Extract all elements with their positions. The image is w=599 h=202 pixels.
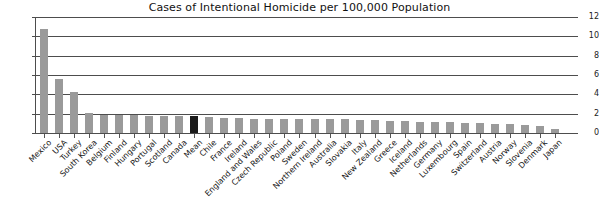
bar-iceland bbox=[401, 121, 409, 133]
bar-netherlands bbox=[416, 122, 424, 133]
bar-finland bbox=[115, 115, 123, 133]
bar-austria bbox=[491, 124, 499, 133]
bar-chile bbox=[205, 117, 213, 133]
x-tick-mark bbox=[480, 134, 481, 138]
bar-scotland bbox=[160, 116, 168, 133]
bar-slovenia bbox=[521, 125, 529, 133]
plot-area bbox=[36, 17, 578, 133]
x-tick-mark bbox=[330, 134, 331, 138]
gridline bbox=[36, 75, 578, 76]
bar-england-and-wales bbox=[250, 119, 258, 134]
bar-slovakia bbox=[341, 119, 349, 133]
bar-south-korea bbox=[85, 113, 93, 133]
x-tick-mark bbox=[540, 134, 541, 138]
bar-spain bbox=[461, 123, 469, 133]
x-tick-label: Mexico bbox=[27, 138, 53, 164]
bar-denmark bbox=[536, 126, 544, 133]
x-tick-mark bbox=[345, 134, 346, 138]
gridline bbox=[36, 36, 578, 37]
y-tick-mark bbox=[32, 114, 35, 115]
y-tick-mark bbox=[32, 17, 35, 18]
y-tick-mark bbox=[32, 94, 35, 95]
x-tick-mark bbox=[164, 134, 165, 138]
chart-title: Cases of Intentional Homicide per 100,00… bbox=[0, 1, 599, 14]
bar-usa bbox=[55, 79, 63, 133]
x-tick-mark bbox=[465, 134, 466, 138]
x-tick-mark bbox=[299, 134, 300, 138]
x-tick-mark bbox=[224, 134, 225, 138]
x-tick-mark bbox=[194, 134, 195, 138]
x-tick-mark bbox=[134, 134, 135, 138]
x-tick-mark bbox=[59, 134, 60, 138]
bar-greece bbox=[386, 121, 394, 133]
bar-poland bbox=[280, 119, 288, 134]
x-tick-mark bbox=[525, 134, 526, 138]
x-tick-mark bbox=[510, 134, 511, 138]
homicide-bar-chart: Cases of Intentional Homicide per 100,00… bbox=[0, 0, 599, 202]
x-tick-mark bbox=[239, 134, 240, 138]
x-tick-mark bbox=[315, 134, 316, 138]
x-tick-mark bbox=[44, 134, 45, 138]
x-tick-mark bbox=[269, 134, 270, 138]
x-tick-mark bbox=[420, 134, 421, 138]
bar-italy bbox=[356, 120, 364, 133]
x-tick-mark bbox=[254, 134, 255, 138]
x-tick-mark bbox=[495, 134, 496, 138]
bar-sweden bbox=[295, 119, 303, 134]
bar-mexico bbox=[40, 29, 48, 133]
bar-czech-republic bbox=[265, 119, 273, 134]
bar-switzerland bbox=[476, 123, 484, 133]
x-tick-mark bbox=[555, 134, 556, 138]
bar-new-zealand bbox=[371, 120, 379, 133]
bar-portugal bbox=[145, 116, 153, 133]
y-tick-mark bbox=[32, 56, 35, 57]
bar-australia bbox=[326, 119, 334, 133]
x-axis-line bbox=[35, 133, 578, 134]
x-tick-mark bbox=[405, 134, 406, 138]
x-tick-mark bbox=[375, 134, 376, 138]
bar-belgium bbox=[100, 115, 108, 133]
x-tick-mark bbox=[209, 134, 210, 138]
x-tick-mark bbox=[450, 134, 451, 138]
x-tick-mark bbox=[390, 134, 391, 138]
bar-turkey bbox=[70, 92, 78, 133]
bar-mean bbox=[190, 116, 198, 133]
bar-luxembourg bbox=[446, 122, 454, 133]
bar-ireland bbox=[235, 118, 243, 133]
x-tick-mark bbox=[179, 134, 180, 138]
bar-germany bbox=[431, 122, 439, 133]
x-tick-mark bbox=[284, 134, 285, 138]
x-tick-mark bbox=[149, 134, 150, 138]
bar-canada bbox=[175, 116, 183, 133]
y-tick-mark bbox=[32, 75, 35, 76]
bar-northern-ireland bbox=[311, 119, 319, 133]
x-tick-mark bbox=[89, 134, 90, 138]
bar-japan bbox=[551, 129, 559, 133]
x-tick-mark bbox=[119, 134, 120, 138]
x-tick-mark bbox=[360, 134, 361, 138]
gridline bbox=[36, 94, 578, 95]
gridline bbox=[36, 17, 578, 18]
bar-hungary bbox=[130, 115, 138, 133]
bar-norway bbox=[506, 124, 514, 133]
bar-france bbox=[220, 118, 228, 133]
y-tick-mark bbox=[32, 133, 35, 134]
x-tick-mark bbox=[435, 134, 436, 138]
gridline bbox=[36, 56, 578, 57]
x-tick-mark bbox=[104, 134, 105, 138]
y-tick-mark bbox=[32, 36, 35, 37]
x-tick-mark bbox=[74, 134, 75, 138]
